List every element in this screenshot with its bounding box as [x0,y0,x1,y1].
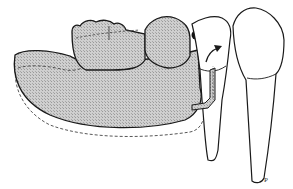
dental-diagram [0,0,293,189]
molar-tooth-1 [72,20,145,70]
neighbour-tooth [233,8,284,183]
molar-tooth-2 [145,17,190,68]
figure-label: P [264,176,268,184]
dental-figure: P [0,0,293,189]
